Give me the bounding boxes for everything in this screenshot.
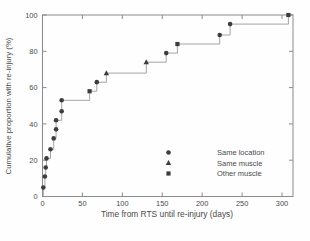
event-circle-marker: [94, 80, 99, 85]
cumulative-reinjury-step-chart: 050100150200250300020406080100 Same loca…: [0, 0, 310, 241]
y-tick-label: 100: [25, 11, 37, 20]
event-circle-marker: [228, 22, 233, 27]
x-tick-label: 0: [40, 199, 44, 208]
legend-label: Same muscle: [217, 159, 262, 168]
event-circle-marker: [59, 98, 64, 103]
x-tick-label: 250: [236, 199, 248, 208]
legend: Same locationSame muscleOther muscle: [166, 148, 265, 178]
legend-triangle-marker: [166, 160, 171, 165]
x-tick-label: 100: [116, 199, 128, 208]
event-square-marker: [175, 42, 179, 46]
legend-circle-marker: [166, 150, 171, 155]
event-circle-marker: [164, 51, 169, 56]
x-tick-label: 150: [156, 199, 168, 208]
x-tick-label: 200: [196, 199, 208, 208]
legend-square-marker: [166, 171, 170, 175]
y-tick-label: 60: [29, 83, 37, 92]
x-tick-label: 50: [78, 199, 86, 208]
axis-ticks: 050100150200250300020406080100: [25, 11, 293, 208]
event-circle-marker: [43, 174, 48, 179]
y-axis-title: Cumulative proportion with re-injury (%): [4, 37, 13, 174]
x-axis-title: Time from RTS until re-injury (days): [101, 209, 233, 219]
legend-label: Other muscle: [217, 169, 262, 178]
event-circle-marker: [51, 136, 56, 141]
event-square-marker: [286, 13, 290, 17]
event-circle-marker: [54, 127, 59, 132]
legend-label: Same location: [217, 148, 265, 157]
event-circle-marker: [217, 33, 222, 38]
event-circle-marker: [54, 118, 59, 123]
event-circle-marker: [44, 156, 49, 161]
event-circle-marker: [59, 109, 64, 114]
y-tick-label: 20: [29, 156, 37, 165]
event-circle-marker: [41, 185, 46, 190]
x-tick-label: 300: [276, 199, 288, 208]
y-tick-label: 0: [33, 192, 37, 201]
y-tick-label: 40: [29, 120, 37, 129]
kaplan-meier-figure: 050100150200250300020406080100 Same loca…: [0, 0, 310, 241]
event-circle-marker: [43, 165, 48, 170]
y-tick-label: 80: [29, 47, 37, 56]
event-circle-marker: [48, 147, 53, 152]
event-square-marker: [88, 89, 92, 93]
